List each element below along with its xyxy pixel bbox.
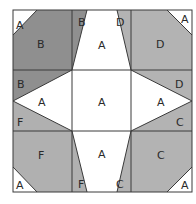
label-bl-f-big: F xyxy=(38,149,44,162)
label-br-c-big: C xyxy=(157,149,165,162)
label-tr-d-top: D xyxy=(116,16,124,29)
quilt-block-svg: A B B B D D A D A A A A A F F A F C C A … xyxy=(0,0,196,204)
label-tl-b-big: B xyxy=(37,38,45,51)
label-top-a: A xyxy=(98,39,106,52)
label-br-c-right: C xyxy=(176,116,184,129)
label-center-a: A xyxy=(98,96,106,109)
label-left-a: A xyxy=(38,96,46,109)
label-tl-a: A xyxy=(16,19,24,32)
quilt-block-diagram: A B B B D D A D A A A A A F F A F C C A … xyxy=(0,0,196,204)
label-tr-d-big: D xyxy=(156,38,164,51)
label-tl-b-top: B xyxy=(78,16,86,29)
label-bl-f-left: F xyxy=(17,116,23,129)
label-bottom-a: A xyxy=(98,148,106,161)
label-bl-a: A xyxy=(16,179,24,192)
label-tl-b-left: B xyxy=(17,78,25,91)
label-bl-f-bottom: F xyxy=(78,178,84,191)
label-br-a: A xyxy=(181,179,189,192)
label-br-c-bottom: C xyxy=(116,178,124,191)
label-tr-a: A xyxy=(181,13,189,26)
label-tr-d-right: D xyxy=(175,78,183,91)
label-right-a: A xyxy=(157,96,165,109)
